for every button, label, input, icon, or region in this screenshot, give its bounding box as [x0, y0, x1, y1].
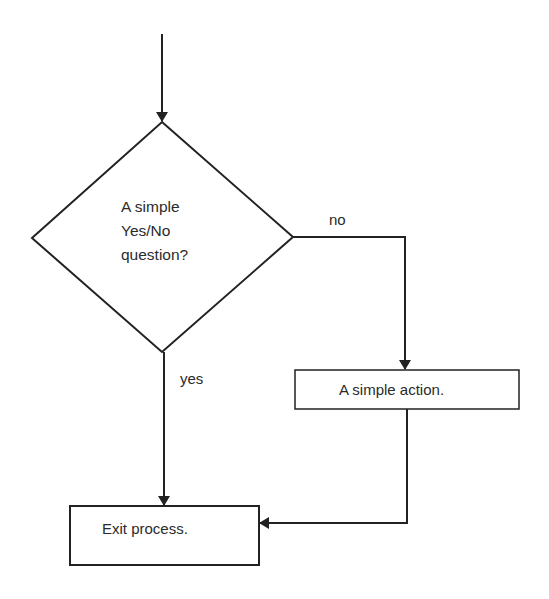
exit-box-label: Exit process. [102, 521, 188, 536]
no-branch-label: no [329, 212, 346, 227]
action-to-exit-connector [260, 409, 407, 523]
decision-question: A simple Yes/No question? [121, 195, 188, 267]
action-box-label: A simple action. [339, 382, 444, 397]
decision-line-3: question? [121, 243, 188, 267]
decision-line-2: Yes/No [121, 219, 188, 243]
flowchart-canvas [0, 0, 549, 599]
yes-branch-label: yes [180, 371, 203, 386]
decision-line-1: A simple [121, 195, 188, 219]
no-branch-connector [293, 237, 405, 369]
